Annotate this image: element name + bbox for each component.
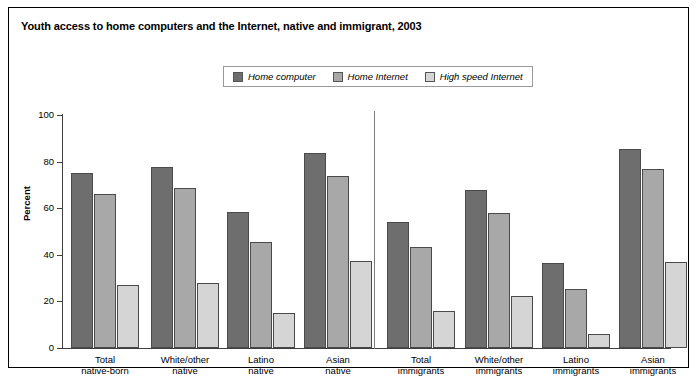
plot-area bbox=[62, 115, 670, 348]
bar-group bbox=[227, 115, 295, 348]
bar[interactable] bbox=[227, 212, 249, 348]
chart-legend: Home computer Home Internet High speed I… bbox=[223, 66, 533, 87]
y-tick-label: 80 bbox=[43, 156, 54, 167]
bar-group bbox=[71, 115, 139, 348]
x-axis-group-label: Asianimmigrants bbox=[598, 354, 697, 376]
y-tick-label: 20 bbox=[43, 295, 54, 306]
y-axis-label: Percent bbox=[21, 186, 32, 221]
bar[interactable] bbox=[350, 261, 372, 348]
y-tick-label: 0 bbox=[49, 342, 54, 353]
bar-group bbox=[151, 115, 219, 348]
y-tick-0: 0 bbox=[57, 348, 62, 349]
bar[interactable] bbox=[273, 313, 295, 348]
bar-group bbox=[387, 115, 455, 348]
bar[interactable] bbox=[327, 176, 349, 348]
x-axis-label-line: Asian bbox=[598, 354, 697, 365]
bar[interactable] bbox=[250, 242, 272, 348]
y-tick-label: 60 bbox=[43, 202, 54, 213]
bar[interactable] bbox=[542, 263, 564, 348]
native-immigrant-divider bbox=[374, 111, 375, 349]
legend-item-home-internet: Home Internet bbox=[333, 71, 408, 82]
chart-figure: Youth access to home computers and the I… bbox=[8, 7, 689, 368]
bar[interactable] bbox=[387, 222, 409, 348]
bar[interactable] bbox=[151, 167, 173, 348]
legend-label-home-computer: Home computer bbox=[248, 71, 316, 82]
legend-swatch-high-speed-internet bbox=[425, 72, 435, 82]
x-axis-line bbox=[62, 348, 671, 349]
x-axis-label-line: immigrants bbox=[598, 365, 697, 376]
bar[interactable] bbox=[304, 153, 326, 348]
bar[interactable] bbox=[433, 311, 455, 348]
bar-group bbox=[542, 115, 610, 348]
y-tick-label: 40 bbox=[43, 249, 54, 260]
bar[interactable] bbox=[488, 213, 510, 348]
legend-swatch-home-internet bbox=[333, 72, 343, 82]
bar[interactable] bbox=[642, 169, 664, 348]
bar[interactable] bbox=[197, 283, 219, 348]
bar[interactable] bbox=[511, 296, 533, 348]
bar[interactable] bbox=[410, 247, 432, 348]
bar[interactable] bbox=[665, 262, 687, 348]
y-tick-mark bbox=[57, 348, 62, 349]
bar[interactable] bbox=[588, 334, 610, 348]
legend-label-high-speed-internet: High speed Internet bbox=[440, 71, 523, 82]
y-tick-label: 100 bbox=[38, 109, 54, 120]
bar[interactable] bbox=[117, 285, 139, 348]
bar[interactable] bbox=[71, 173, 93, 348]
bar[interactable] bbox=[565, 289, 587, 348]
bar-group bbox=[619, 115, 687, 348]
bar-group bbox=[304, 115, 372, 348]
legend-swatch-home-computer bbox=[233, 72, 243, 82]
bar[interactable] bbox=[619, 149, 641, 348]
bar[interactable] bbox=[174, 188, 196, 348]
legend-item-home-computer: Home computer bbox=[233, 71, 316, 82]
bar-group bbox=[465, 115, 533, 348]
legend-item-high-speed-internet: High speed Internet bbox=[425, 71, 523, 82]
bar[interactable] bbox=[94, 194, 116, 348]
chart-title: Youth access to home computers and the I… bbox=[21, 20, 422, 32]
bar[interactable] bbox=[465, 190, 487, 348]
legend-label-home-internet: Home Internet bbox=[348, 71, 408, 82]
